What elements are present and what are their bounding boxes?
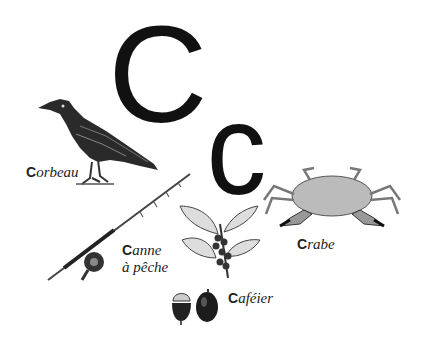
label-canne-a-peche: Canne à pêche	[122, 242, 168, 276]
label-corbeau: Corbeau	[26, 164, 79, 181]
crab-icon	[260, 166, 405, 231]
label-rest: rabe	[307, 236, 335, 252]
label-initial: C	[26, 164, 36, 180]
label-crabe: Crabe	[297, 236, 335, 253]
label-cafeier: Caféier	[228, 290, 273, 307]
coffee-cherry-icon	[170, 287, 222, 325]
label-initial: C	[297, 236, 307, 252]
label-line2: à pêche	[122, 259, 168, 275]
label-rest: orbeau	[36, 164, 79, 180]
label-rest: anne	[132, 242, 161, 258]
label-initial: C	[122, 242, 132, 258]
lowercase-letter: c	[207, 84, 267, 214]
label-initial: C	[228, 290, 238, 306]
fishing-rod-icon	[44, 170, 194, 285]
coffee-branch-icon	[178, 204, 263, 279]
label-rest: aféier	[238, 290, 273, 306]
